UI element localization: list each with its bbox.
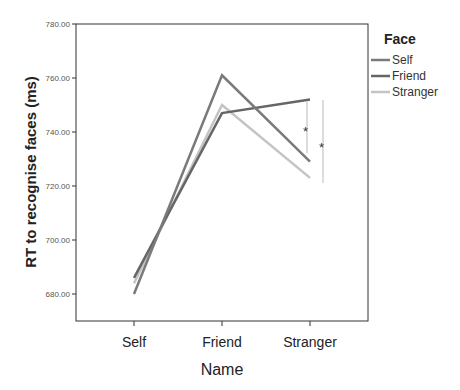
x-tick-label: Friend — [202, 334, 242, 350]
y-tick-label: 700.00 — [46, 236, 71, 245]
y-tick-label: 740.00 — [46, 128, 71, 137]
significance-star: * — [319, 140, 324, 155]
legend: Face SelfFriendStranger — [371, 31, 438, 99]
x-tick-label: Self — [122, 334, 146, 350]
series-line-stranger — [134, 105, 310, 283]
y-axis-title: RT to recognise faces (ms) — [22, 76, 39, 268]
x-axis-title: Name — [201, 361, 244, 378]
x-axis: SelfFriendStranger — [122, 321, 337, 350]
legend-item-friend: Friend — [392, 69, 426, 83]
chart: 780.00760.00740.00720.00700.00680.00 Sel… — [0, 0, 460, 390]
series-line-self — [134, 75, 310, 294]
y-tick-label: 780.00 — [46, 20, 71, 29]
significance-star: * — [303, 124, 308, 139]
series-lines — [134, 75, 310, 294]
legend-item-stranger: Stranger — [392, 85, 438, 99]
legend-title: Face — [384, 31, 416, 47]
x-tick-label: Stranger — [283, 334, 337, 350]
series-line-friend — [134, 100, 310, 278]
significance-markers: * * — [303, 100, 324, 183]
y-tick-label: 680.00 — [46, 290, 71, 299]
y-tick-label: 760.00 — [46, 74, 71, 83]
y-axis: 780.00760.00740.00720.00700.00680.00 — [46, 20, 76, 299]
plot-frame — [76, 24, 368, 321]
legend-item-self: Self — [392, 53, 413, 67]
y-tick-label: 720.00 — [46, 182, 71, 191]
